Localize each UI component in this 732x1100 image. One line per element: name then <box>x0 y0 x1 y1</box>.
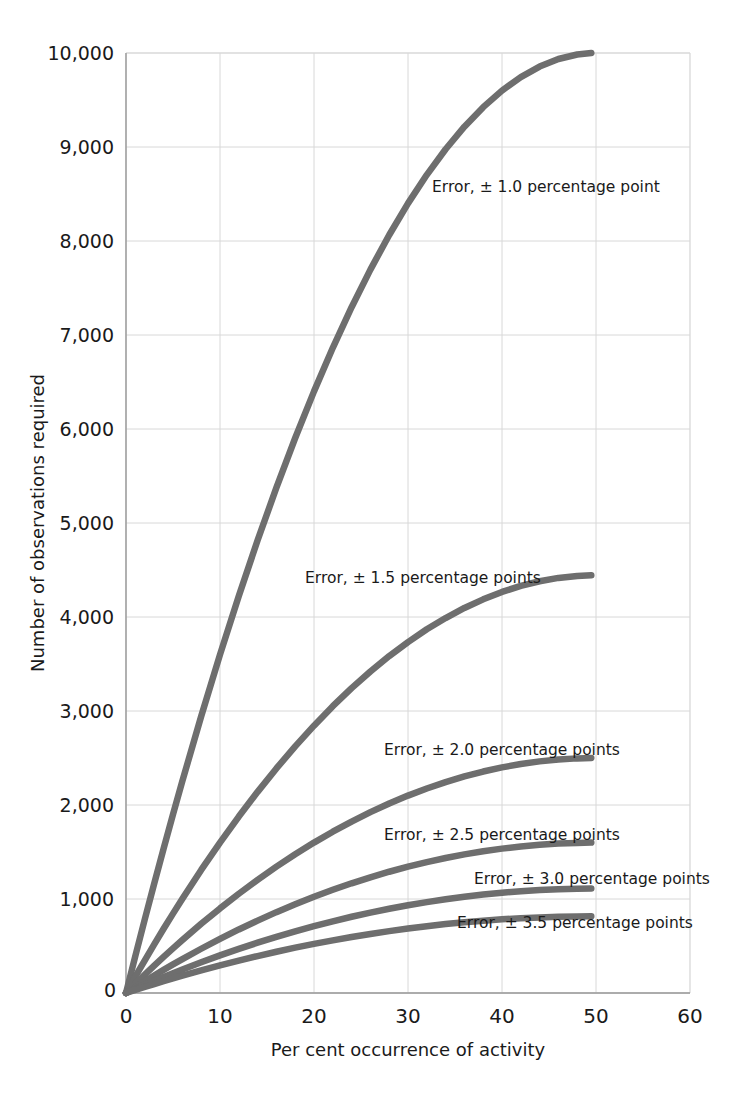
curve-annotation-label: Error, ± 3.5 percentage points <box>457 914 693 932</box>
y-axis-tick-label: 5,000 <box>60 512 114 534</box>
x-axis-tick-label: 10 <box>207 1004 232 1028</box>
x-axis-tick-label: 40 <box>489 1004 514 1028</box>
x-axis-tick-label: 50 <box>583 1004 608 1028</box>
figure-chart: 1,0002,0003,0004,0005,0006,0007,0008,000… <box>0 0 732 1100</box>
curve-annotation-label: Error, ± 1.5 percentage points <box>305 569 541 587</box>
x-axis-tick-label: 0 <box>120 1004 133 1028</box>
x-axis-tick-label: 30 <box>395 1004 420 1028</box>
y-axis-tick-label: 8,000 <box>60 230 114 252</box>
y-axis-tick-label: 2,000 <box>60 794 114 816</box>
x-axis-title: Per cent occurrence of activity <box>271 1039 546 1060</box>
y-axis-tick-label: 3,000 <box>60 700 114 722</box>
y-axis-origin-label: 0 <box>104 979 116 1001</box>
y-axis-tick-label: 7,000 <box>60 324 114 346</box>
y-axis-tick-label: 6,000 <box>60 418 114 440</box>
curve-annotation-label: Error, ± 1.0 percentage point <box>432 178 660 196</box>
curve-annotation-label: Error, ± 3.0 percentage points <box>474 870 710 888</box>
y-axis-tick-label: 4,000 <box>60 606 114 628</box>
y-axis-tick-label: 9,000 <box>60 136 114 158</box>
y-axis-title: Number of observations required <box>27 374 48 672</box>
x-axis-tick-label: 60 <box>677 1004 702 1028</box>
y-axis-tick-label: 1,000 <box>60 888 114 910</box>
x-axis-tick-label: 20 <box>301 1004 326 1028</box>
curve-annotation-label: Error, ± 2.5 percentage points <box>384 826 620 844</box>
y-axis-tick-label: 10,000 <box>48 42 114 64</box>
observations-required-chart: 1,0002,0003,0004,0005,0006,0007,0008,000… <box>0 0 732 1100</box>
curve-annotation-label: Error, ± 2.0 percentage points <box>384 741 620 759</box>
